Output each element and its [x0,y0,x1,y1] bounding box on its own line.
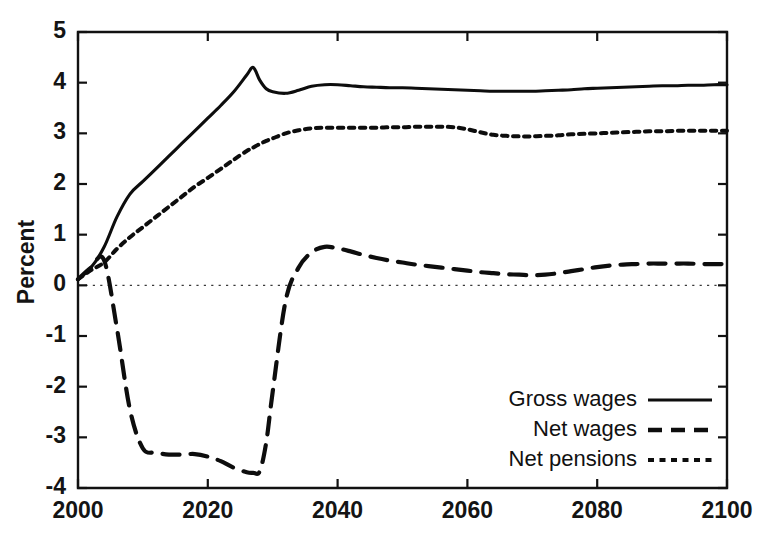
x-tick-label: 2020 [182,497,233,523]
x-tick-label: 2080 [572,497,623,523]
legend-label-net-wages: Net wages [533,416,637,441]
data-series [78,67,727,474]
y-tick-label: -4 [46,473,67,499]
y-axis-title-text: Percent [13,219,39,304]
y-tick-label: -3 [46,422,66,448]
legend-label-gross-wages: Gross wages [509,386,637,411]
x-tick-label: 2060 [442,497,493,523]
line-chart: -4-3-2-1012345200020202040206020802100 P… [0,0,774,546]
x-tick-label: 2100 [701,497,752,523]
legend-label-net-pensions: Net pensions [509,446,637,471]
x-tick-label: 2040 [312,497,363,523]
y-axis-title: Percent [13,219,39,304]
series-line-gross-wages [78,67,727,279]
y-tick-label: 2 [53,169,66,195]
y-tick-label: 1 [53,220,66,246]
axis-tick-labels: -4-3-2-1012345200020202040206020802100 [46,17,753,523]
y-tick-label: 0 [53,270,66,296]
chart-legend: Gross wagesNet wagesNet pensions [509,386,712,471]
y-tick-label: 4 [53,68,66,94]
y-tick-label: 5 [53,17,66,43]
y-tick-label: 3 [53,118,66,144]
chart-figure: -4-3-2-1012345200020202040206020802100 P… [0,0,774,546]
x-tick-label: 2000 [52,497,103,523]
y-tick-label: -2 [46,372,66,398]
y-tick-label: -1 [46,321,67,347]
